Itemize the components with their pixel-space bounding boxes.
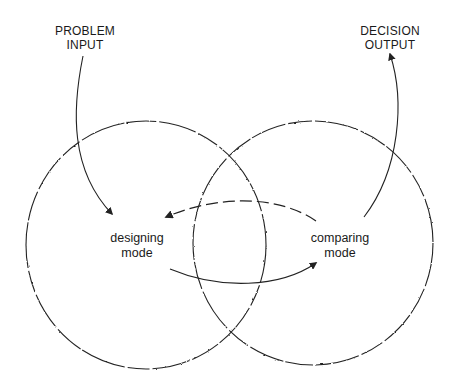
decision-output-label: DECISION OUTPUT — [350, 24, 430, 52]
decision-output-line1: DECISION — [350, 24, 430, 38]
comparing-mode-line1: comparing — [300, 231, 380, 246]
venn-diagram — [0, 0, 456, 388]
problem-input-label: PROBLEM INPUT — [45, 24, 125, 52]
comparing-mode-line2: mode — [300, 246, 380, 261]
problem-input-line2: INPUT — [45, 38, 125, 52]
comparing-to-designing-arrow — [166, 201, 316, 221]
comparing-mode-label: comparing mode — [300, 231, 380, 261]
designing-to-comparing-arrow — [170, 263, 316, 283]
decision-output-line2: OUTPUT — [350, 38, 430, 52]
designing-mode-line1: designing — [97, 231, 177, 246]
designing-mode-label: designing mode — [97, 231, 177, 261]
problem-input-line1: PROBLEM — [45, 24, 125, 38]
problem-input-arrow — [76, 56, 112, 214]
designing-mode-line2: mode — [97, 246, 177, 261]
